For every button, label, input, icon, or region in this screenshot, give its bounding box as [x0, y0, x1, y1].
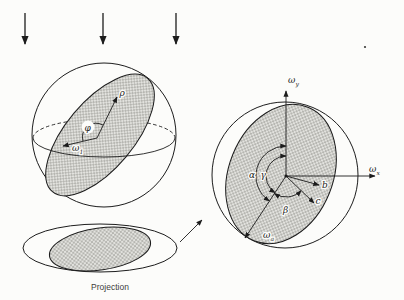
tilted-disk [26, 56, 173, 213]
c-axis-label: c [316, 196, 321, 206]
incident-beam-arrows [25, 13, 176, 44]
alpha-label: α [249, 170, 255, 180]
omega-x-label-sub: x [377, 169, 381, 176]
beta-label: β [282, 205, 288, 215]
figure-canvas: ρ φ ω 1 Projection ω y ω x ω a α γ β b c [0, 0, 404, 300]
omega1-label-sub: 1 [80, 148, 84, 155]
disk-orientation-diagram: ρ φ ω 1 Projection ω y ω x ω a α γ β b c [0, 0, 404, 300]
pole-vector-label: ρ [119, 88, 126, 98]
print-dot [364, 46, 366, 48]
sphere-with-disk: ρ φ ω 1 [26, 56, 176, 213]
b-axis-label: b [322, 180, 328, 190]
rotation-disk-ellipse [206, 88, 356, 260]
phi-label: φ [85, 123, 92, 133]
transform-arrow [180, 220, 202, 242]
projection-group: Projection [23, 221, 177, 292]
rotation-diagram: ω y ω x ω a α γ β b c [206, 75, 381, 260]
omega-a-label-sub: a [271, 235, 275, 242]
omega-y-label-sub: y [295, 80, 300, 88]
gamma-label: γ [261, 170, 267, 180]
projection-caption: Projection [91, 282, 129, 292]
